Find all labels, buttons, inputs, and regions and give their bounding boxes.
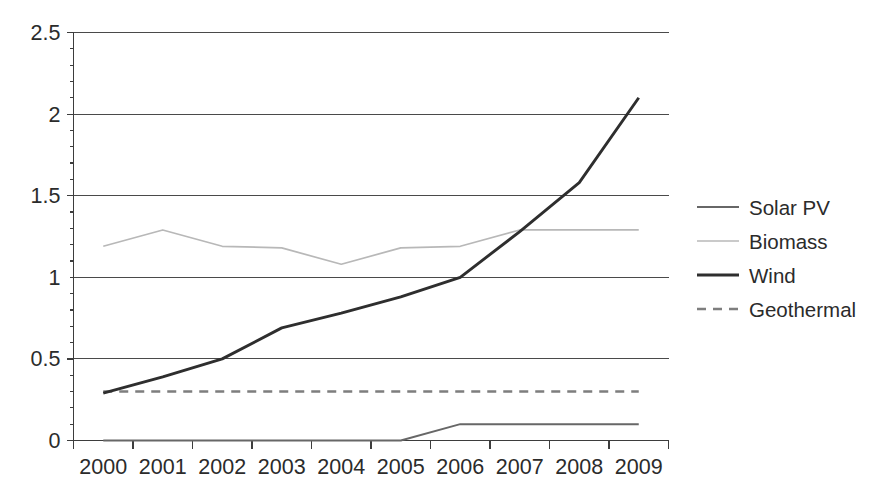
x-tick-label: 2005 xyxy=(377,455,425,479)
chart-container: 00.511.522.5 200020012002200320042005200… xyxy=(0,0,883,492)
y-tick-label: 0 xyxy=(49,429,61,453)
y-tick-label: 1 xyxy=(49,266,61,290)
x-tick-label: 2002 xyxy=(198,455,246,479)
x-tick-label: 2000 xyxy=(79,455,127,479)
legend-label: Biomass xyxy=(749,230,828,253)
x-tick-label: 2004 xyxy=(317,455,365,479)
line-chart: 00.511.522.5 200020012002200320042005200… xyxy=(0,0,883,492)
legend-label: Wind xyxy=(749,264,796,287)
x-tick-label: 2001 xyxy=(139,455,187,479)
x-tick-label: 2009 xyxy=(615,455,663,479)
y-tick-label: 1.5 xyxy=(31,184,61,208)
y-tick-label: 2 xyxy=(49,103,61,127)
y-tick-label: 2.5 xyxy=(31,21,61,45)
x-tick-label: 2006 xyxy=(436,455,484,479)
x-tick-label: 2003 xyxy=(258,455,306,479)
x-tick-label: 2007 xyxy=(496,455,544,479)
legend-label: Solar PV xyxy=(749,196,830,219)
x-tick-label: 2008 xyxy=(555,455,603,479)
y-tick-label: 0.5 xyxy=(31,347,61,371)
legend-label: Geothermal xyxy=(749,298,856,321)
